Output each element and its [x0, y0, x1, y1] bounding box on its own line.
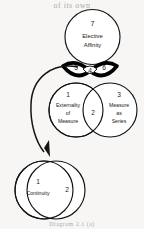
middle-left-label-line2: of: [66, 110, 71, 116]
middle-circles-group: 1 Externality of Measure 3 Measure as Se…: [49, 83, 137, 137]
middle-right-number: 3: [117, 91, 121, 98]
top-circle-group[interactable]: 7 Elective Affinity: [65, 10, 120, 65]
bottom-overlap-number: 2: [65, 186, 69, 193]
middle-right-label-line2: as: [116, 110, 122, 116]
middle-right-label-line3: Series: [112, 118, 127, 124]
top-circle-number: 7: [90, 19, 94, 28]
middle-left-number: 1: [66, 91, 70, 98]
middle-right-label-line1: Measure: [109, 102, 129, 108]
top-circle-label-line1: Elective: [82, 33, 103, 39]
bottom-circles-group: 1 Continuity 2: [15, 161, 85, 219]
figure-caption: Diagram 2.1 (a): [0, 218, 144, 229]
lens-center-number: 4: [88, 67, 92, 74]
bottom-left-number: 1: [36, 178, 40, 185]
top-circle-label-line2: Affinity: [84, 42, 102, 48]
middle-overlap-number: 2: [91, 109, 95, 116]
bottom-left-label-line1: Continuity: [26, 190, 49, 196]
venn-diagram: 7 Elective Affinity 1 Externality of Mea…: [0, 0, 144, 229]
middle-left-label-line1: Externality: [56, 102, 81, 108]
figure-root: of its own 7 Elective Affinity 1 Externa…: [0, 0, 144, 229]
lens-right-number: 6: [102, 64, 106, 71]
middle-left-label-line3: Measure: [58, 118, 78, 124]
page-top-text: of its own: [0, 0, 144, 11]
